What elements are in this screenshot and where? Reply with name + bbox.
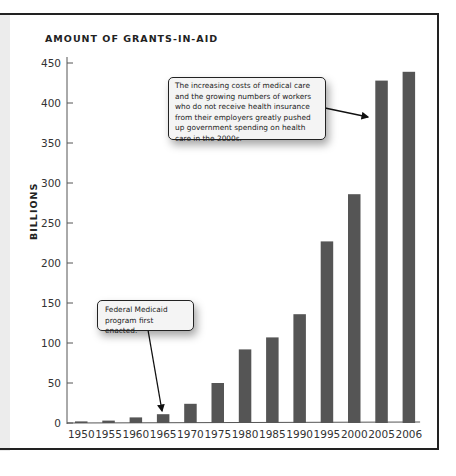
y-tick-label: 50: [48, 377, 61, 389]
bar-1950: [75, 421, 88, 423]
y-tick-label: 400: [41, 97, 61, 109]
bar-1970: [184, 404, 197, 423]
y-tick-label: 100: [41, 337, 61, 349]
bar-1965: [157, 414, 170, 423]
y-tick-label: 0: [54, 417, 61, 429]
bar-2000: [348, 194, 361, 423]
bar-1980: [239, 349, 252, 423]
x-tick-label: 1965: [150, 428, 177, 440]
x-tick-label: 1985: [259, 428, 286, 440]
y-tick-label: 250: [41, 217, 61, 229]
x-tick-label: 2005: [368, 428, 395, 440]
x-tick-label: 1990: [286, 428, 313, 440]
y-tick-label: 300: [41, 177, 61, 189]
y-tick-label: 350: [41, 137, 61, 149]
x-tick-label: 1970: [177, 428, 204, 440]
bar-1985: [266, 337, 279, 423]
x-axis-labels: 1950195519601965197019751980198519901995…: [68, 428, 423, 440]
y-tick-label: 150: [41, 297, 61, 309]
x-tick-label: 2006: [395, 428, 422, 440]
bar-chart: 050100150200250300350400450 195019551960…: [0, 0, 456, 476]
bar-2005: [375, 81, 388, 423]
x-tick-label: 1975: [204, 428, 231, 440]
y-tick-label: 200: [41, 257, 61, 269]
bar-2006: [403, 72, 416, 423]
x-tick-label: 2000: [341, 428, 368, 440]
bar-1955: [102, 421, 115, 423]
x-tick-label: 1995: [314, 428, 341, 440]
arrow-health-costs: [325, 108, 368, 117]
x-tick-label: 1960: [122, 428, 149, 440]
annotation-arrows: [148, 108, 368, 411]
x-tick-label: 1980: [232, 428, 259, 440]
bar-1960: [130, 417, 143, 423]
callout-health-costs: The increasing costs of medical care and…: [168, 77, 326, 140]
bar-1990: [293, 314, 306, 423]
bar-1975: [212, 383, 225, 423]
x-tick-label: 1955: [95, 428, 122, 440]
bar-1995: [321, 241, 334, 423]
callout-medicaid: Federal Medicaid program first enacted.: [97, 300, 194, 331]
arrow-medicaid: [148, 330, 162, 411]
x-tick-label: 1950: [68, 428, 95, 440]
y-tick-label: 450: [41, 57, 61, 69]
